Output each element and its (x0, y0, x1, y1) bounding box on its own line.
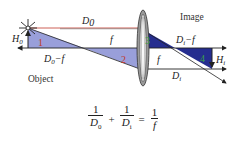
lens-icon (137, 10, 149, 86)
fraction-1-over-D0: 1 D0 (88, 103, 103, 134)
numerator: 1 (91, 103, 101, 115)
label-D0: D0 (81, 15, 94, 28)
label-f-left: f (110, 34, 114, 45)
label-object: Object (28, 74, 54, 84)
triangle-2-number: 2 (121, 54, 126, 65)
label-D0-minus-f: D0−f (43, 53, 65, 66)
numerator: 1 (122, 103, 132, 115)
label-image: Image (180, 12, 204, 22)
fraction-1-over-Di: 1 Di (120, 103, 134, 134)
triangle-4 (175, 48, 212, 69)
label-H0: H0 (11, 33, 23, 46)
triangle-3-number: 3 (145, 35, 150, 46)
fraction-1-over-f: 1 f (150, 106, 160, 132)
equals-sign: = (139, 113, 145, 125)
label-f-right: f (157, 54, 161, 65)
triangle-1-number: 1 (38, 37, 43, 48)
label-Di: Di (171, 70, 181, 83)
plus-sign: + (108, 113, 114, 125)
label-Di-minus-f: Di−f (175, 34, 196, 47)
denominator: D0 (88, 115, 103, 134)
thin-lens-formula: 1 D0 + 1 Di = 1 f (86, 103, 161, 134)
triangle-4-number: 4 (200, 53, 205, 64)
denominator: Di (120, 115, 134, 134)
denominator: f (151, 118, 158, 132)
numerator: 1 (150, 106, 160, 118)
label-Hi: Hi (215, 54, 225, 67)
